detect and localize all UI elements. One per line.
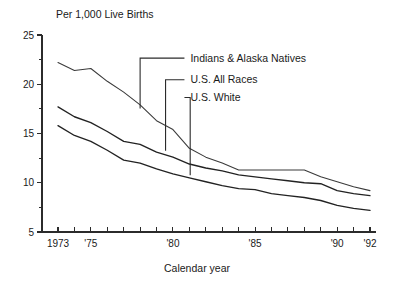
x-tick-label: '85 <box>249 238 262 249</box>
unit-caption-group: Per 1,000 Live Births <box>56 8 153 20</box>
series-line <box>58 126 370 211</box>
y-axis-ticks <box>37 35 42 232</box>
x-axis-ticks <box>58 227 370 232</box>
series-line <box>58 107 370 196</box>
x-axis-tick-labels: 1973'75'80'85'90'92 <box>47 238 377 249</box>
annotation-labels: Indians & Alaska NativesU.S. All RacesU.… <box>190 52 306 103</box>
series-label: Indians & Alaska Natives <box>190 52 306 64</box>
x-tick-label: '80 <box>166 238 179 249</box>
y-tick-label: 20 <box>23 79 35 90</box>
annotation-leader-lines <box>140 58 190 175</box>
leader-line <box>140 58 184 108</box>
y-tick-label: 5 <box>28 227 34 238</box>
y-tick-label: 15 <box>23 128 35 139</box>
chart-container: Per 1,000 Live Births 510152025 1973'75'… <box>0 0 394 291</box>
x-tick-label: '92 <box>363 238 376 249</box>
series-label: U.S. White <box>190 91 240 103</box>
x-tick-label: '90 <box>331 238 344 249</box>
unit-caption: Per 1,000 Live Births <box>56 8 153 20</box>
y-axis-tick-labels: 510152025 <box>23 30 35 238</box>
x-axis-title: Calendar year <box>164 262 230 274</box>
y-tick-label: 10 <box>23 177 35 188</box>
x-tick-label: '75 <box>84 238 97 249</box>
x-tick-label: 1973 <box>47 238 70 249</box>
y-tick-label: 25 <box>23 30 35 41</box>
line-chart: Per 1,000 Live Births 510152025 1973'75'… <box>0 0 394 291</box>
series-label: U.S. All Races <box>190 73 257 85</box>
